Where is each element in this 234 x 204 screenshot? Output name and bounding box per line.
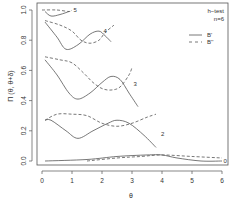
x-tick-label: 6 xyxy=(220,177,224,184)
curve-label: 0 xyxy=(224,158,228,164)
y-axis-label: Π (θ, θ+δ) xyxy=(7,70,15,101)
curve-3-solid xyxy=(45,60,138,107)
y-tick-label: 0.8 xyxy=(20,35,27,44)
curve-5-solid xyxy=(45,12,69,17)
legend: h−testn=6B'B'' xyxy=(189,8,225,45)
curve-4-solid xyxy=(45,22,111,49)
curve-3-dashed xyxy=(45,57,132,90)
x-axis: 0123456 xyxy=(40,171,224,184)
x-tick-label: 1 xyxy=(70,177,74,184)
y-tick-label: 0.2 xyxy=(20,126,27,135)
curve-label: 4 xyxy=(104,28,108,34)
curve-label: 5 xyxy=(74,7,78,13)
curve-0-solid xyxy=(45,155,222,162)
y-tick-label: 0.4 xyxy=(20,96,27,105)
y-axis: 0.00.20.40.60.81.0 xyxy=(20,5,32,165)
plot-series xyxy=(42,10,222,161)
chart-svg: 54320 0123456 0.00.20.40.60.81.0 h−testn… xyxy=(0,0,234,204)
curve-0-dashed xyxy=(87,155,222,161)
y-tick-label: 0.0 xyxy=(20,156,27,165)
legend-label: B' xyxy=(207,32,212,38)
y-tick-label: 1.0 xyxy=(20,5,27,14)
curve-label: 3 xyxy=(134,81,138,87)
legend-label: B'' xyxy=(207,39,213,45)
x-tick-label: 5 xyxy=(190,177,194,184)
x-tick-label: 4 xyxy=(160,177,164,184)
legend-title: h−test xyxy=(207,8,224,14)
curve-5-dashed xyxy=(42,10,72,12)
curve-label: 2 xyxy=(161,131,165,137)
curve-2-dashed xyxy=(45,114,156,127)
x-tick-label: 2 xyxy=(100,177,104,184)
x-tick-label: 3 xyxy=(130,177,134,184)
x-axis-label: θ xyxy=(129,192,133,199)
legend-title: n=6 xyxy=(214,16,225,22)
y-tick-label: 0.6 xyxy=(20,66,27,75)
curve-2-solid xyxy=(45,119,156,147)
chart-container: 54320 0123456 0.00.20.40.60.81.0 h−testn… xyxy=(0,0,234,204)
x-tick-label: 0 xyxy=(40,177,44,184)
